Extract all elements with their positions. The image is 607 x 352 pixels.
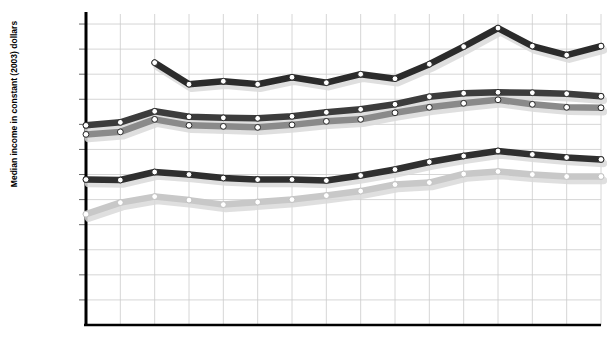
data-point <box>255 177 261 183</box>
data-point <box>255 81 261 87</box>
data-point <box>426 94 432 100</box>
data-point <box>186 81 192 87</box>
data-point <box>255 199 261 205</box>
data-point <box>358 173 364 179</box>
data-point <box>461 100 467 106</box>
data-point <box>392 167 398 173</box>
data-point <box>289 177 295 183</box>
data-point <box>255 124 261 130</box>
data-point <box>426 104 432 110</box>
data-point <box>598 174 604 180</box>
data-point <box>152 108 158 114</box>
data-point <box>495 25 501 31</box>
data-point <box>564 91 570 97</box>
data-point <box>564 174 570 180</box>
data-point <box>529 152 535 158</box>
data-point <box>323 118 329 124</box>
data-point <box>461 153 467 159</box>
data-point <box>495 148 501 154</box>
data-point <box>392 110 398 116</box>
data-point <box>186 122 192 128</box>
data-point <box>426 180 432 186</box>
data-point <box>358 71 364 77</box>
data-point <box>323 109 329 115</box>
data-point <box>117 200 123 206</box>
data-point <box>323 178 329 184</box>
plot-area <box>0 0 607 352</box>
data-point <box>220 175 226 181</box>
data-point <box>564 104 570 110</box>
data-point <box>220 78 226 84</box>
data-point <box>598 105 604 111</box>
data-point <box>598 157 604 163</box>
data-point <box>220 202 226 208</box>
data-point <box>83 177 89 183</box>
data-point <box>186 197 192 203</box>
data-point <box>117 129 123 135</box>
data-point <box>117 177 123 183</box>
data-point <box>529 101 535 107</box>
data-point <box>529 43 535 49</box>
data-point <box>495 169 501 175</box>
data-point <box>83 211 89 217</box>
data-point <box>289 113 295 119</box>
data-point <box>564 52 570 58</box>
data-point <box>152 60 158 66</box>
data-point <box>358 106 364 112</box>
data-point <box>461 44 467 50</box>
data-point <box>117 119 123 125</box>
data-point <box>83 131 89 137</box>
data-point <box>598 93 604 99</box>
data-point <box>186 172 192 178</box>
data-point <box>220 123 226 129</box>
data-point <box>289 197 295 203</box>
chart-root: Median income in constant (2003) dollars <box>0 0 607 352</box>
data-point <box>220 115 226 121</box>
data-point <box>529 90 535 96</box>
data-point <box>495 97 501 103</box>
data-point <box>358 116 364 122</box>
data-point <box>392 76 398 82</box>
data-point <box>83 122 89 128</box>
data-point <box>358 188 364 194</box>
data-point <box>323 193 329 199</box>
data-point <box>289 74 295 80</box>
data-point <box>392 101 398 107</box>
data-point <box>255 115 261 121</box>
data-point <box>495 89 501 95</box>
data-point <box>152 116 158 122</box>
data-point <box>461 171 467 177</box>
data-point <box>323 80 329 86</box>
data-point <box>186 114 192 120</box>
data-point <box>426 61 432 67</box>
data-point <box>289 122 295 128</box>
data-point <box>564 155 570 161</box>
data-point <box>152 169 158 175</box>
data-point <box>529 172 535 178</box>
data-point <box>152 194 158 200</box>
data-point <box>461 90 467 96</box>
data-point <box>426 159 432 165</box>
data-point <box>598 43 604 49</box>
data-point <box>392 182 398 188</box>
